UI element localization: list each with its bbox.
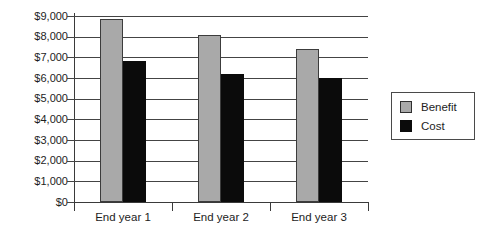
y-axis-tick xyxy=(67,57,74,58)
y-axis-tick xyxy=(67,16,74,17)
x-axis-label-3: End year 3 xyxy=(270,210,368,224)
y-axis-tick-label: $3,000 xyxy=(2,135,68,146)
bar-cost-3 xyxy=(319,78,342,202)
x-axis-label-1: End year 1 xyxy=(74,210,172,224)
y-axis-tick-label: $8,000 xyxy=(2,31,68,42)
y-axis-tick xyxy=(67,140,74,141)
x-axis-tick xyxy=(368,202,369,211)
y-axis-tick xyxy=(67,99,74,100)
y-axis-tick-label: $6,000 xyxy=(2,73,68,84)
y-axis-tick xyxy=(67,37,74,38)
legend-label-cost: Cost xyxy=(421,120,445,132)
gridline xyxy=(74,16,368,17)
x-axis-category-labels: End year 1End year 2End year 3 xyxy=(74,210,368,230)
bar-cost-2 xyxy=(221,74,244,202)
y-axis-tick-label: $1,000 xyxy=(2,176,68,187)
y-axis-tick-label: $2,000 xyxy=(2,155,68,166)
legend-label-benefit: Benefit xyxy=(421,101,457,113)
y-axis-tick-label: $0 xyxy=(2,197,68,208)
y-axis-tick-labels: $0$1,000$2,000$3,000$4,000$5,000$6,000$7… xyxy=(0,0,68,239)
chart-legend: Benefit Cost xyxy=(391,92,475,140)
bar-benefit-2 xyxy=(198,35,221,202)
y-axis-tick xyxy=(67,78,74,79)
bar-benefit-1 xyxy=(100,19,123,202)
bar-cost-1 xyxy=(123,61,146,202)
plot-area xyxy=(74,16,368,202)
y-axis-tick-label: $4,000 xyxy=(2,114,68,125)
y-axis-tick-label: $7,000 xyxy=(2,52,68,63)
y-axis-tick-label: $9,000 xyxy=(2,11,68,22)
x-axis-line xyxy=(67,202,369,203)
y-axis-tick xyxy=(67,161,74,162)
y-axis-tick xyxy=(67,119,74,120)
legend-item-cost: Cost xyxy=(400,118,445,134)
legend-swatch-benefit-icon xyxy=(400,101,412,113)
bar-chart: $0$1,000$2,000$3,000$4,000$5,000$6,000$7… xyxy=(0,0,486,239)
y-axis-line xyxy=(74,13,75,205)
y-axis-tick xyxy=(67,181,74,182)
bar-benefit-3 xyxy=(296,49,319,202)
y-axis-tick-label: $5,000 xyxy=(2,93,68,104)
y-axis-tick xyxy=(67,202,74,203)
legend-swatch-cost-icon xyxy=(400,120,412,132)
legend-item-benefit: Benefit xyxy=(400,99,457,115)
x-axis-label-2: End year 2 xyxy=(172,210,270,224)
